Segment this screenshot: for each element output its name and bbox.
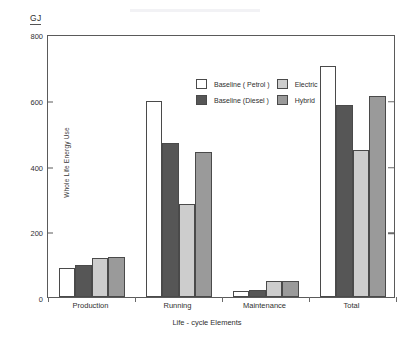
legend-swatch-electric [277,79,288,89]
y-tick-label: 600 [30,97,48,106]
x-tick-mark [48,297,49,302]
y-tick-label: 0 [39,295,48,304]
bar [195,152,212,297]
legend-label-hybrid: Hybrid [295,97,318,104]
unit-label: GJ [30,13,41,25]
y-tick-label: 800 [30,32,48,41]
y-tick-label: 200 [30,229,48,238]
category-label: Production [73,301,109,310]
bar [92,258,109,297]
plot-area: Whole Life Energy Use 0200400600800 Base… [47,35,395,298]
bar [162,143,179,298]
x-axis-title: Life - cycle Elements [0,318,414,327]
legend-swatch-diesel [196,95,207,105]
bar [336,105,353,297]
bar [353,150,370,297]
legend-label-petrol: Baseline ( Petrol ) [214,81,270,88]
category-label: Running [164,301,192,310]
legend-swatch-petrol [196,79,207,89]
category-label: Total [344,301,360,310]
category-label: Maintenance [243,301,286,310]
scan-artifact [130,9,260,12]
y-tick-mark-right [388,233,394,235]
bar [179,204,196,297]
bar [249,290,266,297]
bar [266,281,283,297]
y-tick-mark [48,101,53,102]
bar [59,268,76,297]
x-tick-mark [396,297,397,302]
bar [108,257,125,297]
legend-label-diesel: Baseline (Diesel ) [214,97,270,104]
legend: Baseline ( Petrol )ElectricBaseline (Die… [196,79,318,105]
legend-swatch-hybrid [277,95,288,105]
x-tick-mark [135,297,136,302]
bar [233,291,250,297]
y-tick-mark-right [388,101,394,103]
x-tick-mark [222,297,223,302]
bar [320,66,337,297]
y-tick-mark [48,233,53,234]
bar [146,101,163,297]
bar [369,96,386,297]
legend-label-electric: Electric [295,81,318,88]
y-tick-label: 400 [30,163,48,172]
bar [75,265,92,297]
bar [282,281,299,297]
y-axis-title: Whole Life Energy Use [63,98,70,228]
y-tick-mark [48,167,53,168]
x-tick-mark [309,297,310,302]
y-tick-mark-right [388,167,394,169]
bar-chart: GJ Whole Life Energy Use 0200400600800 B… [0,0,414,341]
